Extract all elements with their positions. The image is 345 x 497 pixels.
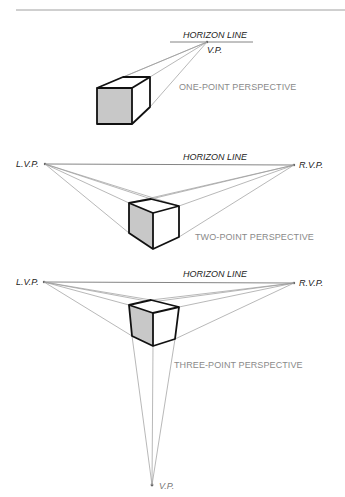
horizon-label: HORIZON LINE bbox=[183, 269, 248, 279]
left-vp-label: L.V.P. bbox=[16, 277, 39, 287]
horizon-line bbox=[45, 164, 294, 165]
two-point-section: HORIZON LINE L.V.P. R.V.P. TWO-POINT PER… bbox=[16, 152, 323, 249]
caption-two-point: TWO-POINT PERSPECTIVE bbox=[195, 232, 314, 242]
three-point-section: HORIZON LINE L.V.P. R.V.P. V.P. THREE-PO… bbox=[16, 269, 323, 491]
caption-one-point: ONE-POINT PERSPECTIVE bbox=[179, 82, 296, 92]
vp-label: V.P. bbox=[207, 45, 222, 55]
right-vp-label: R.V.P. bbox=[299, 160, 323, 170]
left-vp-label: L.V.P. bbox=[16, 159, 39, 169]
caption-three-point: THREE-POINT PERSPECTIVE bbox=[174, 360, 303, 370]
bottom-vp-label: V.P. bbox=[159, 481, 174, 491]
perspective-diagram: HORIZON LINE V.P. ONE-POINT PERSPECTIVE … bbox=[0, 0, 345, 497]
horizon-label: HORIZON LINE bbox=[183, 152, 248, 162]
cube-two-point bbox=[129, 199, 179, 249]
right-vp-label: R.V.P. bbox=[299, 278, 323, 288]
horizon-label: HORIZON LINE bbox=[183, 30, 248, 40]
one-point-section: HORIZON LINE V.P. ONE-POINT PERSPECTIVE bbox=[97, 30, 296, 124]
horizon-line bbox=[44, 282, 294, 283]
cube-one-point bbox=[97, 77, 150, 124]
cube-three-point bbox=[129, 300, 179, 346]
